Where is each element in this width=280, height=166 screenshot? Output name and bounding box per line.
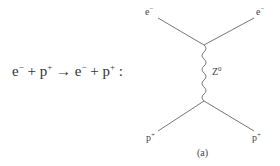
charge: + xyxy=(257,131,261,139)
charge: + xyxy=(151,131,155,139)
proton-in-line xyxy=(158,101,204,131)
label-top-left: e− xyxy=(145,6,153,17)
superscript: 0 xyxy=(218,65,222,73)
electron-out-line xyxy=(204,18,254,45)
electron-in-line xyxy=(158,18,204,45)
label-propagator: Z0 xyxy=(212,66,222,77)
label-bottom-left: p+ xyxy=(146,132,155,143)
label-top-right: e− xyxy=(256,6,264,17)
feynman-diagram xyxy=(0,0,280,166)
charge: − xyxy=(260,5,264,13)
diagram-caption: (a) xyxy=(197,147,208,158)
charge: − xyxy=(149,5,153,13)
proton-out-line xyxy=(204,101,254,131)
label-bottom-right: p+ xyxy=(252,132,261,143)
z-boson-propagator xyxy=(202,45,206,101)
